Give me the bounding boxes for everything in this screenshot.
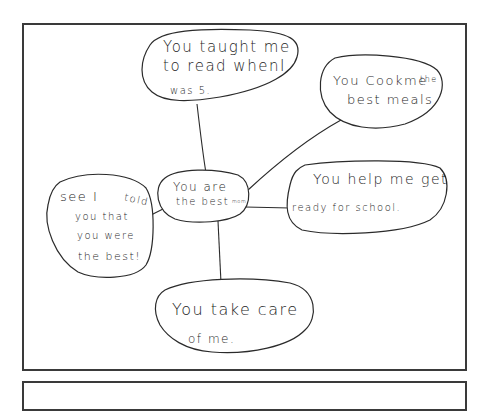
node-help-school-line-1: You help me get bbox=[313, 172, 448, 186]
node-told-you-line-3: you were bbox=[77, 231, 135, 241]
node-take-care-line-1: You take care bbox=[172, 302, 299, 318]
node-told-you-line-1: see I bbox=[60, 190, 98, 203]
node-take-care-line-2: of me. bbox=[188, 333, 235, 345]
node-help-school-line-2: ready for school. bbox=[292, 203, 401, 213]
node-told-you-line-2: you that bbox=[75, 212, 129, 222]
center-line-1: You are bbox=[173, 181, 227, 193]
node-taught-read-line-2: to read whenI bbox=[163, 59, 286, 74]
connector-center-to-take-care bbox=[218, 221, 221, 283]
node-cook-meals-line-2: best meals. bbox=[347, 93, 439, 106]
connector-center-to-help-school bbox=[245, 207, 290, 208]
connector-center-to-taught-read bbox=[197, 104, 206, 173]
node-taught-read-line-1: You taught me bbox=[163, 40, 291, 55]
node-cook-meals-line-1: You Cookme bbox=[333, 74, 428, 87]
center-line-2: the best bbox=[176, 197, 229, 207]
node-cook-meals-suffix: the bbox=[420, 76, 438, 84]
center-suffix: mom bbox=[232, 199, 246, 204]
node-told-you-line-4: the best! bbox=[78, 251, 141, 262]
node-taught-read-line-3: was 5. bbox=[170, 86, 211, 96]
